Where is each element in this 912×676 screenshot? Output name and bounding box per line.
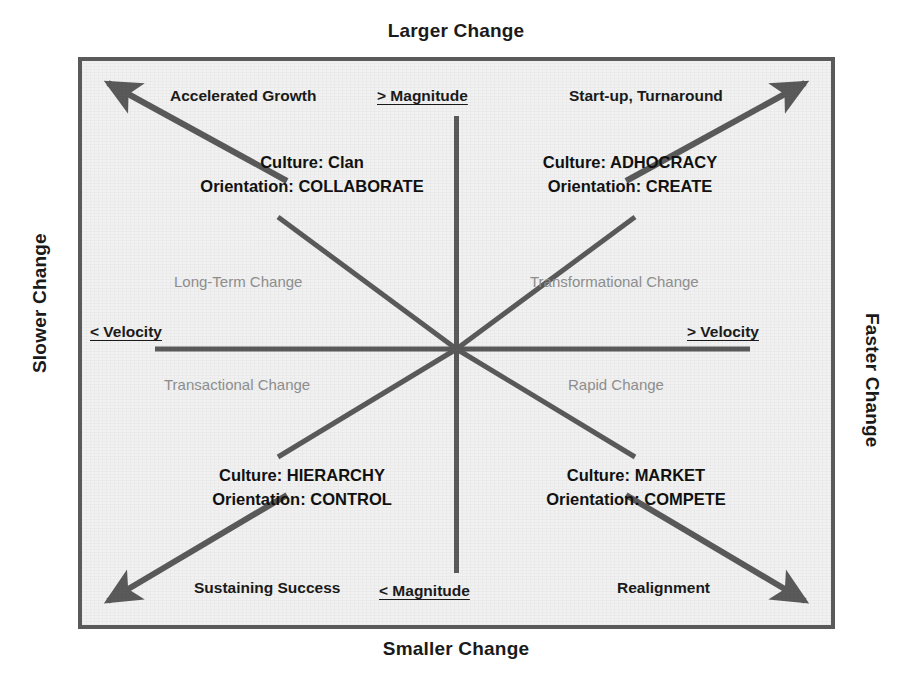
diagonal-spoke-lower-right (457, 349, 636, 457)
scenario-label-top-left: Accelerated Growth (170, 87, 316, 105)
axis-tick-lesser-magnitude: < Magnitude (379, 582, 470, 600)
diagonal-spoke-upper-left (278, 217, 457, 349)
culture-line-adhocracy: Culture: ADHOCRACY (480, 151, 780, 175)
axis-tick-greater-velocity: > Velocity (687, 323, 759, 341)
change-type-lower-right: Rapid Change (568, 376, 664, 393)
orientation-line-collaborate: Orientation: COLLABORATE (162, 175, 462, 199)
quadrant-label-bottom-right: Culture: MARKET Orientation: COMPETE (486, 464, 786, 512)
change-type-upper-left: Long-Term Change (174, 273, 302, 290)
axis-and-arrow-lines (82, 61, 831, 625)
scenario-label-top-right: Start-up, Turnaround (569, 87, 723, 105)
diagonal-spoke-lower-left (278, 349, 457, 457)
axis-caption-top: Larger Change (0, 20, 912, 42)
culture-line-market: Culture: MARKET (486, 464, 786, 488)
axis-caption-left: Slower Change (29, 313, 51, 373)
axis-caption-bottom: Smaller Change (0, 638, 912, 660)
axis-tick-lesser-velocity: < Velocity (90, 323, 162, 341)
quadrant-label-top-left: Culture: Clan Orientation: COLLABORATE (162, 151, 462, 199)
orientation-line-control: Orientation: CONTROL (152, 488, 452, 512)
quadrant-matrix-frame: Accelerated Growth Start-up, Turnaround … (78, 57, 835, 629)
scenario-label-bottom-right: Realignment (617, 579, 710, 597)
orientation-line-create: Orientation: CREATE (480, 175, 780, 199)
change-type-lower-left: Transactional Change (164, 376, 310, 393)
axis-caption-right: Faster Change (861, 313, 883, 373)
diagram-canvas: Larger Change Smaller Change Slower Chan… (0, 0, 912, 676)
scenario-label-bottom-left: Sustaining Success (194, 579, 340, 597)
culture-line-hierarchy: Culture: HIERARCHY (152, 464, 452, 488)
axis-tick-greater-magnitude: > Magnitude (377, 87, 468, 105)
orientation-line-compete: Orientation: COMPETE (486, 488, 786, 512)
quadrant-label-bottom-left: Culture: HIERARCHY Orientation: CONTROL (152, 464, 452, 512)
quadrant-label-top-right: Culture: ADHOCRACY Orientation: CREATE (480, 151, 780, 199)
culture-line-clan: Culture: Clan (162, 151, 462, 175)
change-type-upper-right: Transformational Change (530, 273, 699, 290)
